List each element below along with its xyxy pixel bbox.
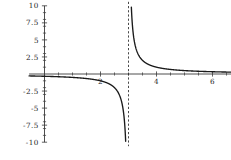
- x-tick-label: 4: [154, 77, 159, 86]
- y-tick-label: -2.5: [23, 87, 39, 96]
- x-tick-label: 2: [98, 77, 103, 86]
- x-tick-label: 6: [210, 77, 215, 86]
- y-tick-label: 5: [34, 36, 39, 45]
- chart-container: 246 -10-7.5-5-2.52.557.510: [0, 0, 231, 160]
- y-tick-label: -10: [26, 138, 39, 147]
- y-tick-label: 7.5: [26, 18, 39, 27]
- y-tick-label: -7.5: [23, 121, 39, 130]
- y-tick-label: 10: [29, 1, 39, 10]
- y-tick-label: 2.5: [26, 53, 39, 62]
- y-tick-label: -5: [31, 104, 39, 113]
- rational-function-chart: 246 -10-7.5-5-2.52.557.510: [0, 0, 231, 160]
